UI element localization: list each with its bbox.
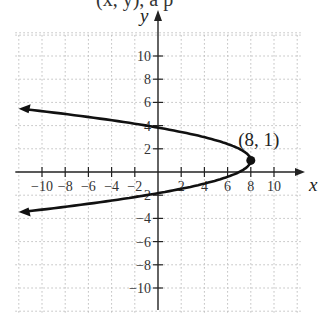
y-tick-label: −8 [136,258,151,273]
y-tick-label: 10 [137,49,151,64]
curve-arrow-left-icon [19,104,31,113]
y-tick-label: −4 [136,211,151,226]
annotations: (8, 1) [238,129,279,165]
parabola-chart: (x, y), a p −10−8−6−4−2246810−10−8−6−4−2… [0,0,331,316]
curve-arrow-left-icon [19,208,31,217]
header-text-fragment: (x, y), a p [96,0,173,11]
y-tick-label: 2 [144,142,151,157]
x-axis-label: x [308,174,318,195]
y-tick-label: −10 [129,281,151,296]
x-tick-label: −10 [31,179,53,194]
x-tick-label: 6 [224,179,231,194]
x-tick-label: −6 [81,179,96,194]
x-tick-label: −4 [104,179,119,194]
x-tick-label: 8 [247,179,254,194]
axes [15,10,305,310]
vertex-point [246,156,255,165]
x-tick-label: 10 [267,179,281,194]
y-tick-label: 6 [144,95,151,110]
parabola-path [25,109,251,211]
x-axis-arrow-icon [295,168,305,176]
y-axis-label: y [138,5,149,26]
y-tick-label: −6 [136,235,151,250]
x-tick-label: −8 [58,179,73,194]
y-axis-arrow-icon [154,10,162,21]
x-tick-label: 2 [178,179,185,194]
x-tick-label: 4 [201,179,208,194]
y-tick-label: 8 [144,72,151,87]
vertex-label: (8, 1) [238,129,279,151]
